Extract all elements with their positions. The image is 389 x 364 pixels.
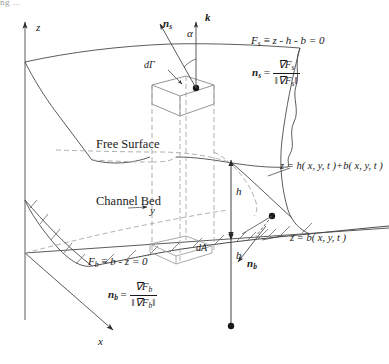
figure-canvas: ng ... — [0, 0, 389, 364]
channel-bed-name-label: Channel Bed — [96, 195, 161, 208]
fb-symbol: F — [88, 255, 95, 267]
nb-def-subscript: b — [114, 293, 118, 302]
surface-vectors — [160, 22, 199, 91]
ns-def-numerator: ∇Fs — [273, 59, 300, 73]
nb-def-numerator: ∇Fb — [130, 281, 158, 295]
prism-top-face — [152, 76, 214, 96]
ns-definition-formula: ns = ∇Fs ‖∇Fs‖ — [252, 59, 300, 88]
ns-den-close: ‖ — [295, 74, 298, 86]
alpha-angle-arc — [184, 59, 196, 67]
nb-def-denominator: ‖∇Fb‖ — [130, 295, 158, 310]
alpha-angle-label: α — [187, 28, 193, 39]
ns-num-grad: ∇F — [278, 58, 292, 70]
channel-bed-left-edge — [25, 200, 92, 266]
axes-group — [25, 22, 389, 330]
nb-base-line — [242, 216, 272, 234]
prism-free-surface-intersection-mid — [152, 157, 176, 162]
dA-label: dA — [196, 243, 207, 253]
nb-definition-formula: nb = ∇Fb ‖∇Fb‖ — [108, 281, 157, 310]
prism-base-skirt-bottom — [150, 252, 212, 264]
free-surface-name-label: Free Surface — [96, 138, 160, 151]
channel-bed-equation-label: z = b( x, y, t ) — [290, 233, 346, 244]
k-unit-vector-label: k — [205, 12, 211, 23]
control-prism — [56, 76, 257, 264]
fb-subscript: b — [95, 260, 99, 269]
ns-def-equals: = — [264, 66, 270, 78]
ns-num-sub: s — [292, 63, 295, 72]
ns-def-denominator: ‖∇Fs‖ — [273, 73, 300, 88]
channel-bed-left-edge-inner — [25, 200, 92, 266]
datum-point-marker — [228, 323, 234, 329]
ns-vector-label: ns — [163, 18, 172, 31]
dgamma-label: dΓ — [144, 60, 155, 70]
fb-level-set-formula: Fb ≡ b - z = 0 — [88, 256, 148, 269]
nb-vector-subscript: b — [253, 262, 257, 271]
prism-hidden-edges — [152, 76, 214, 262]
dimension-lines — [228, 160, 234, 329]
nb-den-close: ‖ — [152, 296, 155, 308]
free-surface-hidden-contour — [56, 150, 232, 163]
nb-vector-label: nb — [247, 258, 257, 271]
ns-vector-subscript: s — [169, 22, 172, 31]
nb-def-equals: = — [121, 288, 127, 300]
fb-right-hand-side: b - z = 0 — [110, 255, 147, 267]
diagram-vector-graphics — [0, 0, 389, 364]
free-surface-left-edge — [25, 62, 92, 160]
dgamma-leader-arrow — [168, 70, 182, 84]
nb-num-sub: b — [148, 285, 152, 294]
nb-def-fraction: ∇Fb ‖∇Fb‖ — [130, 281, 158, 310]
free-surface-equation-label: z = h( x, y, t )+b( x, y, t ) — [280, 161, 383, 172]
nb-den-open: ‖∇F — [132, 296, 149, 308]
fs-equiv-sign: ≡ — [263, 34, 269, 46]
fs-level-set-formula: Fs ≡ z - h - b = 0 — [251, 35, 324, 48]
x-axis-label: x — [98, 336, 103, 347]
ns-def-fraction: ∇Fs ‖∇Fs‖ — [273, 59, 300, 88]
fs-symbol: F — [251, 34, 258, 46]
depth-h-label: h — [236, 186, 242, 197]
bed-elevation-b-label: b — [236, 250, 242, 261]
prism-collar-bottom — [152, 104, 214, 116]
bed-left-hatching — [30, 200, 85, 264]
nb-num-grad: ∇F — [135, 280, 149, 292]
z-axis-label: z — [36, 22, 40, 33]
fs-subscript: s — [258, 39, 261, 48]
ns-def-subscript: s — [258, 71, 261, 80]
fs-right-hand-side: z - h - b = 0 — [272, 34, 324, 46]
ns-den-open: ‖∇F — [275, 74, 292, 86]
fb-equiv-sign: ≡ — [101, 255, 107, 267]
